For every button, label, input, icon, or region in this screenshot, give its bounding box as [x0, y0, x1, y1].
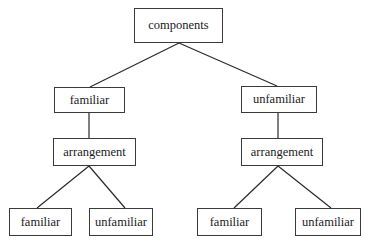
- node-familiar-level2: familiar: [54, 87, 125, 113]
- edge-rarr-familiar: [234, 166, 278, 208]
- node-familiar-leaf-2: familiar: [197, 208, 262, 236]
- edge-root-unfamiliar: [179, 43, 277, 86]
- tree-diagram: components familiar unfamiliar arrangeme…: [0, 0, 372, 245]
- node-unfamiliar-leaf-1: unfamiliar: [89, 208, 153, 236]
- node-components: components: [134, 8, 223, 43]
- edge-larr-familiar: [37, 166, 89, 208]
- node-arrangement-left: arrangement: [53, 138, 136, 166]
- node-familiar-leaf-1: familiar: [9, 208, 72, 236]
- edge-root-familiar: [90, 43, 179, 87]
- node-unfamiliar-leaf-2: unfamiliar: [295, 208, 361, 236]
- edge-larr-unfamiliar: [89, 166, 125, 208]
- edge-rarr-unfamiliar: [278, 166, 331, 208]
- node-arrangement-right: arrangement: [241, 138, 323, 166]
- node-unfamiliar-level2: unfamiliar: [241, 86, 317, 113]
